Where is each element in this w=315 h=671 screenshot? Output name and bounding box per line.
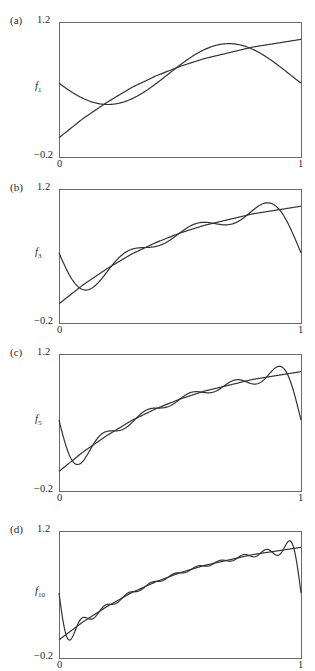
target-function-line [59,547,301,640]
axes-frame [60,532,302,659]
plot-area [0,0,315,671]
partial-sum-line-f10 [59,541,301,640]
